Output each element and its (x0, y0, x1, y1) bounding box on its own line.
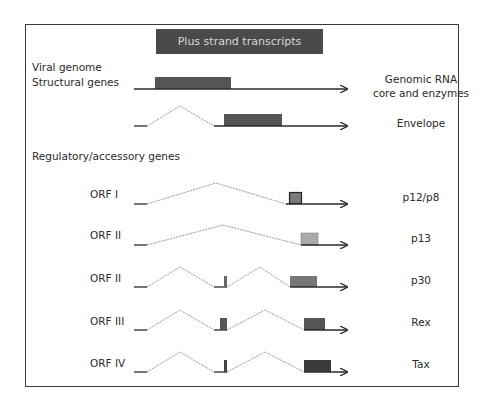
p13-box (301, 233, 318, 245)
rex-transcript (134, 310, 347, 330)
envelope-transcript (134, 106, 347, 126)
rex-exon-box (220, 318, 227, 330)
p30-box (290, 276, 317, 287)
rex-box (304, 318, 325, 330)
p30-transcript (134, 267, 347, 287)
p30-exon-tick (224, 276, 227, 287)
tax-transcript (134, 352, 347, 372)
transcript-diagram (0, 0, 484, 410)
envelope-box (224, 114, 282, 126)
tax-exon-tick (224, 360, 227, 372)
p13-transcript (134, 225, 347, 245)
tax-box (304, 360, 331, 372)
structural-gene-box (155, 77, 231, 89)
p12-box (290, 193, 302, 204)
p12-transcript (134, 183, 347, 204)
structural-transcript (134, 77, 347, 89)
